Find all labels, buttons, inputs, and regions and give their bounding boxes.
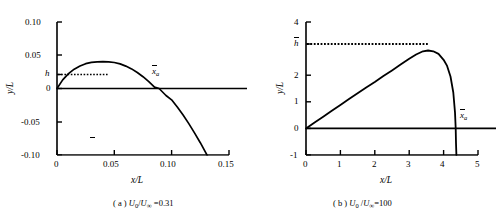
panel-a-hbar-tick-label: h [45,68,50,78]
panel-b-trajectory-curve [306,51,456,156]
panel-a: 0.10 0.05 h 0 -0.05 -0.10 0 0.05 0.10 0.… [0,0,249,224]
panel-b-xtick-label-3: 3 [406,159,411,169]
panel-b-ytick-label-2: 2 [294,70,299,80]
panel-b-ytick-label-4: 4 [294,17,299,27]
panel-b-xtick-label-2: 2 [372,159,377,169]
panel-b-xtick-label-1: 1 [337,159,342,169]
panel-a-caption-uinf: U [141,198,147,208]
panel-a-ytick-label-2: 0 [46,83,51,93]
figure-container: 0.10 0.05 h 0 -0.05 -0.10 0 0.05 0.10 0.… [0,0,498,224]
panel-a-ytick-label-3: -0.05 [21,117,40,127]
panel-a-xtick-label-2: 0.10 [160,159,176,169]
panel-a-xa-annotation: xa [152,66,159,76]
panel-a-ytick-label-1: 0.05 [25,50,41,60]
panel-b-hbar-tick-label: h [294,38,299,48]
panel-b-caption-prefix: ( b ) [333,198,347,208]
panel-b-ytick-label-1: 1 [294,96,299,106]
panel-a-ytick-label-4: -0.10 [21,150,40,160]
panel-b-caption-value: =100 [374,198,392,208]
panel-a-xtick-label-3: 0.15 [218,159,234,169]
panel-b-ylabel: y/L [275,79,285,97]
panel-b-xtick-label-0: 0 [303,159,308,169]
panel-a-xa-sub: a [156,70,159,77]
panel-b: 4 h 2 1 0 -1 0 1 2 3 4 5 xa x/L y/L ( b … [249,0,498,224]
panel-b-xa-annotation: xa [460,110,467,120]
panel-b-caption-uinf-sub: ∞ [369,202,374,210]
panel-b-ytick-label-m1: -1 [290,150,298,160]
panel-a-clip-mask [0,156,249,224]
panel-b-xa-sub: a [464,114,467,121]
panel-a-caption-value: =0.31 [154,198,174,208]
panel-b-xtick-label-4: 4 [440,159,445,169]
panel-a-plot [0,0,249,224]
panel-a-caption-prefix: ( a ) [113,198,127,208]
panel-b-hbar-text: h [294,38,299,48]
panel-a-caption-u0-sub: 0 [135,202,138,209]
panel-b-ytick-label-0: 0 [294,123,299,133]
panel-a-xtick-label-1: 0.05 [103,159,119,169]
panel-b-caption-u0-sub: 0 [355,202,358,209]
panel-b-caption: ( b ) U0 /U∞=100 [333,198,392,208]
panel-a-xtick-label-0: 0 [54,159,59,169]
panel-b-xlabel: x/L [380,175,392,185]
panel-a-hbar-text: h [45,68,50,78]
panel-a-caption-uinf-sub: ∞ [147,202,152,210]
panel-a-ytick-label-0: 0.10 [25,17,41,27]
panel-a-xlabel: x/L [131,175,143,185]
panel-b-xtick-label-5: 5 [475,159,480,169]
panel-a-caption: ( a ) U0/U∞ =0.31 [113,198,174,208]
panel-a-ylabel: y/L [5,79,15,97]
